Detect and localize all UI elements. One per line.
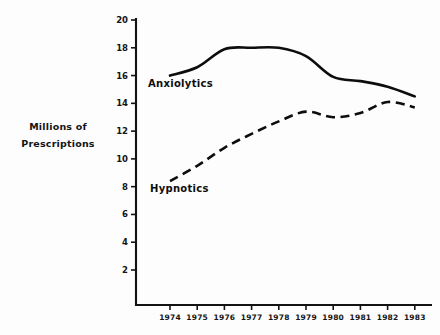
y-tick-label: 18: [116, 43, 128, 53]
plot-area: 2468101214161820 19741975197619771978197…: [0, 0, 440, 335]
series-label-anxiolytics: Anxiolytics: [148, 78, 213, 89]
y-tick-label: 20: [116, 15, 128, 25]
x-tick-label: 1974: [159, 313, 181, 322]
x-tick-label: 1975: [186, 313, 208, 322]
x-tick-label: 1978: [268, 313, 290, 322]
x-axis-ticks: 1974197519761977197819791980198119821983: [159, 305, 425, 322]
chart-figure: Millions of Prescriptions 24681012141618…: [0, 0, 440, 335]
y-axis-ticks: 2468101214161820: [116, 15, 136, 275]
y-tick-label: 16: [116, 71, 128, 81]
y-tick-label: 4: [122, 237, 128, 247]
y-tick-label: 8: [122, 182, 128, 192]
y-tick-label: 10: [116, 154, 128, 164]
series-label-hypnotics: Hypnotics: [150, 183, 209, 194]
y-tick-label: 6: [122, 209, 128, 219]
x-tick-label: 1982: [377, 313, 399, 322]
x-tick-label: 1979: [295, 313, 317, 322]
axis-lines: [136, 18, 432, 305]
series-line-hypnotics: [170, 102, 415, 181]
x-tick-label: 1976: [214, 313, 236, 322]
series-lines: [170, 47, 415, 181]
y-tick-label: 2: [122, 265, 128, 275]
x-tick-label: 1977: [241, 313, 263, 322]
y-tick-label: 14: [116, 98, 128, 108]
x-tick-label: 1980: [322, 313, 344, 322]
x-tick-label: 1981: [350, 313, 372, 322]
axes: [136, 18, 432, 305]
y-tick-label: 12: [116, 126, 128, 136]
x-tick-label: 1983: [404, 313, 426, 322]
